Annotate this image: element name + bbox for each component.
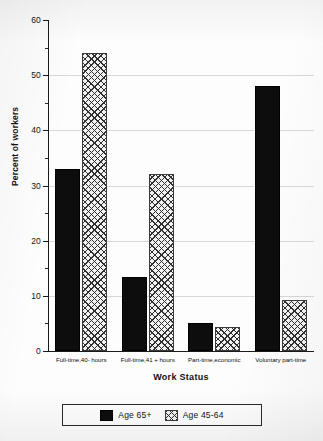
bar xyxy=(282,300,307,351)
bar xyxy=(82,53,107,351)
y-tick-label: 60 xyxy=(31,15,41,25)
bar-group xyxy=(188,20,240,351)
x-tick-label: Full-time,41 + hours xyxy=(121,356,175,363)
y-tick-label: 10 xyxy=(31,291,41,301)
bar xyxy=(122,277,147,351)
x-axis-title: Work Status xyxy=(48,372,314,382)
chart-legend: Age 65+Age 45-64 xyxy=(62,404,262,426)
bar-group xyxy=(122,20,174,351)
bar-group xyxy=(255,20,307,351)
y-axis-title: Percent of workers xyxy=(10,107,20,186)
legend-entry: Age 45-64 xyxy=(165,410,224,421)
bar-chart-figure: 0102030405060 Percent of workers Full-ti… xyxy=(0,0,323,441)
bar xyxy=(149,174,174,351)
plot-area: 0102030405060 xyxy=(48,20,314,352)
bar xyxy=(188,323,213,351)
bars-layer xyxy=(48,20,314,352)
y-tick-label: 50 xyxy=(31,70,41,80)
x-tick-label: Part-time,economic xyxy=(188,356,240,363)
legend-swatch xyxy=(165,410,178,421)
bar xyxy=(215,327,240,351)
y-tick-label: 40 xyxy=(31,125,41,135)
bar xyxy=(255,86,280,351)
y-tick-label: 0 xyxy=(36,346,41,356)
legend-label: Age 65+ xyxy=(118,410,151,420)
x-tick-label: Full-time,40- hours xyxy=(56,356,107,363)
legend-swatch xyxy=(100,410,113,421)
bar-group xyxy=(55,20,107,351)
legend-label: Age 45-64 xyxy=(183,410,224,420)
legend-entry: Age 65+ xyxy=(100,410,151,421)
x-tick-label: Voluntary part-time xyxy=(255,356,306,363)
bar xyxy=(55,169,80,351)
y-tick-label: 30 xyxy=(31,181,41,191)
x-axis-tick-labels: Full-time,40- hoursFull-time,41 + hoursP… xyxy=(48,356,314,368)
y-tick-label: 20 xyxy=(31,236,41,246)
